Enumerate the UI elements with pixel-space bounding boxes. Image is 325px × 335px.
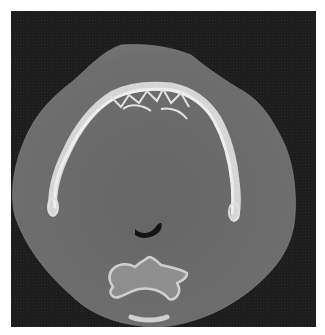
ct-image-frame (11, 11, 316, 327)
ct-scan-image (11, 11, 316, 327)
